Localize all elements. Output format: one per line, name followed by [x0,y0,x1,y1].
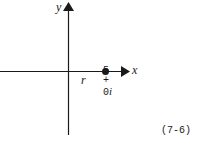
complex-plane-diagram: y x 5 + 0i r (7-6) [0,0,197,141]
x-axis-arrow-icon [121,66,130,77]
y-axis-label: y [56,1,61,13]
radius-label: r [81,74,86,86]
y-axis-arrow-icon [63,2,74,11]
equation-number: (7-6) [161,126,191,136]
imaginary-unit: i [109,85,112,97]
x-axis-label: x [132,64,137,76]
